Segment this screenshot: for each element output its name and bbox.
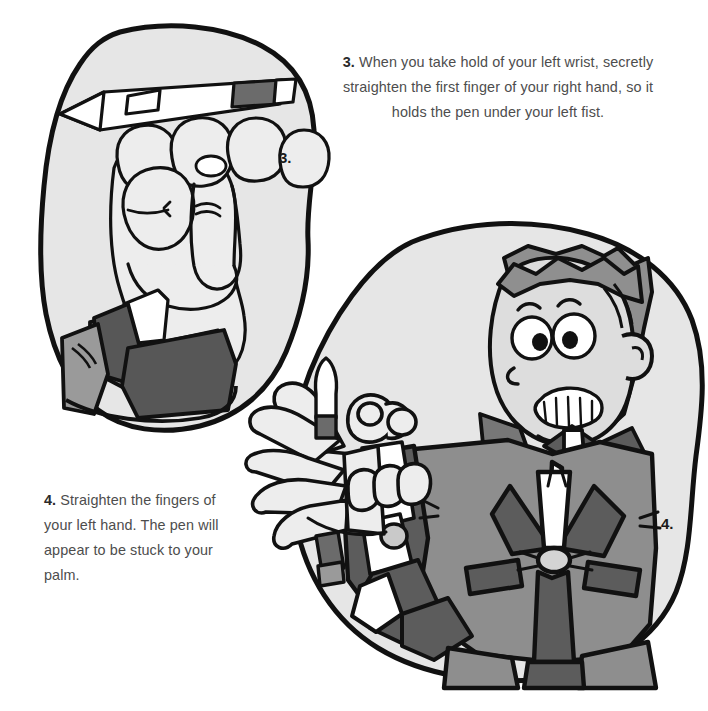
instruction-line: straighten the first finger of your righ…	[296, 75, 700, 100]
step-number-4: 4.	[44, 492, 56, 508]
instruction-line: holds the pen under your left fist.	[296, 100, 700, 125]
instruction-text-step-3: 3. When you take hold of your left wrist…	[296, 50, 700, 125]
instruction-line: Straighten the fingers of	[60, 492, 215, 508]
step-number-3: 3.	[343, 54, 355, 70]
figure-step-4: 4.	[252, 218, 708, 688]
instruction-line: When you take hold of your left wrist, s…	[359, 54, 653, 70]
instruction-line: palm.	[44, 563, 276, 588]
page-canvas: 3.	[0, 0, 708, 711]
instruction-line: appear to be stuck to your	[44, 538, 276, 563]
instruction-text-step-4: 4. Straighten the fingers of your left h…	[44, 488, 276, 588]
instruction-line: your left hand. The pen will	[44, 513, 276, 538]
figure-label-3: 3.	[279, 149, 292, 166]
figure-label-4: 4.	[661, 515, 674, 532]
